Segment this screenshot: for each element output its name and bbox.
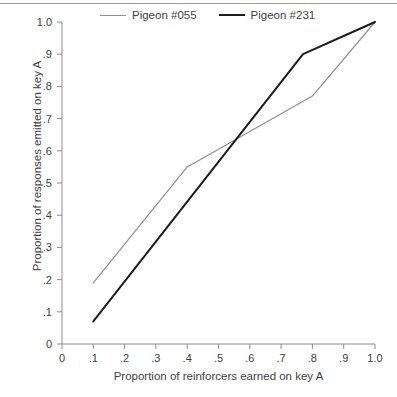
plot-area: 0.1.2.3.4.5.6.7.8.91.0 0.1.2.3.4.5.6.7.8… (0, 0, 397, 397)
series-line-pigeon-055 (93, 22, 375, 283)
y-tick-label: .8 (43, 80, 52, 92)
y-tick-label: .5 (43, 177, 52, 189)
y-tick-label: 0 (46, 338, 52, 350)
x-tick-label: .3 (151, 352, 160, 364)
y-tick-label: .6 (43, 145, 52, 157)
data-series-group (93, 22, 375, 321)
series-line-pigeon-231 (93, 22, 375, 321)
x-tick-label: .9 (339, 352, 348, 364)
x-axis-title: Proportion of reinforcers earned on key … (62, 370, 375, 382)
chart-figure: Pigeon #055 Pigeon #231 0.1.2.3.4.5.6.7.… (0, 0, 397, 397)
x-tick-label: 0 (59, 352, 65, 364)
x-tick-label: .7 (277, 352, 286, 364)
x-tick-label: .5 (214, 352, 223, 364)
x-tick-label: .1 (89, 352, 98, 364)
x-tick-label: .2 (120, 352, 129, 364)
x-tick-label: .6 (245, 352, 254, 364)
y-axis-title: Proportion of responses emitted on key A (31, 51, 43, 281)
x-axis-ticks: 0.1.2.3.4.5.6.7.8.91.0 (59, 344, 383, 364)
y-tick-label: .4 (43, 209, 52, 221)
y-tick-label: 1.0 (37, 16, 52, 28)
y-tick-label: .1 (43, 306, 52, 318)
x-tick-label: 1.0 (367, 352, 382, 364)
y-tick-label: .9 (43, 48, 52, 60)
y-tick-label: .2 (43, 274, 52, 286)
y-tick-label: .3 (43, 241, 52, 253)
x-tick-label: .8 (308, 352, 317, 364)
axis-lines (62, 22, 375, 344)
y-tick-label: .7 (43, 113, 52, 125)
x-tick-label: .4 (183, 352, 192, 364)
